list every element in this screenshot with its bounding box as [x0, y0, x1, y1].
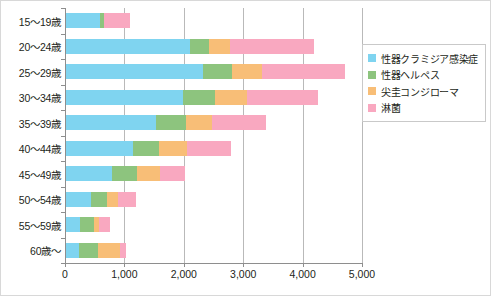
- bar-row: [65, 136, 362, 162]
- category-label: 15〜19歳: [0, 14, 61, 29]
- legend-label: 性器クラミジア感染症: [381, 51, 478, 66]
- bar-segment[interactable]: [160, 166, 185, 181]
- bar-row: [65, 34, 362, 60]
- stacked-bar[interactable]: [65, 217, 110, 232]
- bar-segment[interactable]: [79, 243, 99, 258]
- category-label: 30〜34歳: [0, 90, 61, 105]
- category-label: 55〜59歳: [0, 218, 61, 233]
- x-axis-line: [65, 263, 363, 264]
- bar-row: [65, 212, 362, 238]
- legend-item[interactable]: 性器ヘルペス: [368, 67, 481, 84]
- bar-segment[interactable]: [65, 141, 133, 156]
- bar-segment[interactable]: [91, 192, 107, 207]
- x-axis-tick-label: 4,000: [289, 268, 315, 280]
- category-label: 40〜44歳: [0, 141, 61, 156]
- bar-segment[interactable]: [212, 115, 266, 130]
- category-label: 45〜49歳: [0, 167, 61, 182]
- y-tick-mark: [61, 238, 65, 239]
- bar-row: [65, 187, 362, 213]
- category-label: 25〜29歳: [0, 65, 61, 80]
- stacked-bar[interactable]: [65, 39, 314, 54]
- bar-segment[interactable]: [159, 141, 187, 156]
- legend-swatch: [368, 71, 376, 79]
- x-axis-tick-label: 0: [62, 268, 68, 280]
- bar-segment[interactable]: [209, 39, 230, 54]
- bar-segment[interactable]: [120, 243, 126, 258]
- y-tick-mark: [61, 212, 65, 213]
- bar-segment[interactable]: [104, 13, 129, 28]
- y-tick-mark: [61, 110, 65, 111]
- bar-segment[interactable]: [247, 90, 318, 105]
- bar-row: [65, 85, 362, 111]
- legend-label: 尖圭コンジローマ: [381, 84, 459, 99]
- y-tick-mark: [61, 8, 65, 9]
- x-tick-mark: [184, 263, 185, 267]
- legend-item[interactable]: 尖圭コンジローマ: [368, 83, 481, 100]
- category-label: 60歳〜: [0, 243, 61, 258]
- legend-swatch: [368, 104, 376, 112]
- x-axis-tick-label: 5,000: [349, 268, 375, 280]
- y-axis-line: [65, 8, 66, 263]
- stacked-bar[interactable]: [65, 115, 266, 130]
- bar-segment[interactable]: [187, 141, 231, 156]
- stacked-bar[interactable]: [65, 166, 185, 181]
- bar-segment[interactable]: [156, 115, 186, 130]
- legend-item[interactable]: 性器クラミジア感染症: [368, 50, 481, 67]
- bar-segment[interactable]: [183, 90, 215, 105]
- category-label: 35〜39歳: [0, 116, 61, 131]
- bar-segment[interactable]: [65, 64, 203, 79]
- category-axis-labels: 15〜19歳20〜24歳25〜29歳30〜34歳35〜39歳40〜44歳45〜4…: [0, 8, 61, 263]
- legend-label: 淋菌: [381, 100, 400, 115]
- bar-row: [65, 59, 362, 85]
- bar-segment[interactable]: [186, 115, 212, 130]
- bar-segment[interactable]: [99, 217, 110, 232]
- bar-segment[interactable]: [190, 39, 209, 54]
- x-axis-tick-label: 1,000: [111, 268, 137, 280]
- x-tick-mark: [65, 263, 66, 267]
- bar-segment[interactable]: [137, 166, 160, 181]
- bar-segment[interactable]: [65, 90, 183, 105]
- y-tick-mark: [61, 136, 65, 137]
- legend-label: 性器ヘルペス: [381, 67, 439, 82]
- bar-segment[interactable]: [65, 243, 79, 258]
- bar-segment[interactable]: [65, 217, 80, 232]
- stacked-bar[interactable]: [65, 141, 231, 156]
- y-tick-mark: [61, 59, 65, 60]
- legend-item[interactable]: 淋菌: [368, 100, 481, 117]
- x-axis-tick-label: 3,000: [230, 268, 256, 280]
- stacked-bar[interactable]: [65, 90, 318, 105]
- stacked-bar[interactable]: [65, 64, 345, 79]
- bar-segment[interactable]: [65, 39, 190, 54]
- bar-segment[interactable]: [232, 64, 262, 79]
- category-label: 20〜24歳: [0, 39, 61, 54]
- x-tick-mark: [362, 263, 363, 267]
- bar-segment[interactable]: [65, 115, 156, 130]
- x-axis-tick-label: 2,000: [171, 268, 197, 280]
- y-tick-mark: [61, 85, 65, 86]
- stacked-bar[interactable]: [65, 13, 130, 28]
- stacked-bar-chart: 15〜19歳20〜24歳25〜29歳30〜34歳35〜39歳40〜44歳45〜4…: [0, 0, 491, 296]
- bar-segment[interactable]: [107, 192, 118, 207]
- bar-segment[interactable]: [98, 243, 119, 258]
- bar-segment[interactable]: [112, 166, 137, 181]
- legend-swatch: [368, 54, 376, 62]
- bar-segment[interactable]: [80, 217, 94, 232]
- bar-row: [65, 8, 362, 34]
- bar-segment[interactable]: [203, 64, 232, 79]
- bar-segment[interactable]: [65, 166, 112, 181]
- legend-swatch: [368, 87, 376, 95]
- y-tick-mark: [61, 34, 65, 35]
- bar-segment[interactable]: [230, 39, 315, 54]
- stacked-bar[interactable]: [65, 243, 126, 258]
- bar-segment[interactable]: [262, 64, 345, 79]
- bar-segment[interactable]: [133, 141, 160, 156]
- bar-segment[interactable]: [215, 90, 247, 105]
- y-tick-mark: [61, 187, 65, 188]
- bar-segment[interactable]: [118, 192, 136, 207]
- bar-segment[interactable]: [65, 13, 100, 28]
- x-tick-mark: [243, 263, 244, 267]
- plot-area: [65, 8, 362, 263]
- bar-row: [65, 110, 362, 136]
- stacked-bar[interactable]: [65, 192, 136, 207]
- bar-segment[interactable]: [65, 192, 91, 207]
